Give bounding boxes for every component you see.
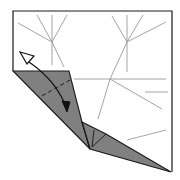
origami-diagram [0, 0, 180, 180]
diagram-canvas [0, 0, 180, 180]
